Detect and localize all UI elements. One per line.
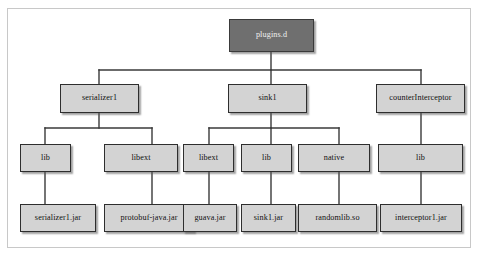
node-label: protobuf-java.jar [119,214,180,223]
node-serializer1-libext[interactable]: libext [104,144,178,172]
node-guava-jar[interactable]: guava.jar [183,204,237,232]
figure-container: plugins.d serializer1 sink1 counterInter… [0,0,479,258]
node-label: lib [39,154,52,163]
node-label: sink1.jar [252,214,285,223]
node-label: counterInterceptor [387,94,453,103]
node-sink1-native[interactable]: native [298,144,370,172]
node-label: native [322,154,347,163]
node-sink1-libext[interactable]: libext [183,144,234,172]
node-label: serializer1.jar [33,214,83,223]
node-label: plugins.d [254,31,289,40]
node-randomlib-so[interactable]: randomlib.so [298,204,377,232]
node-serializer1-lib[interactable]: lib [20,144,71,172]
node-label: lib [414,154,427,163]
node-label: sink1 [256,94,278,103]
node-protobuf-java-jar[interactable]: protobuf-java.jar [104,204,194,232]
node-counterinterceptor-lib[interactable]: lib [378,144,463,172]
node-interceptor1-jar[interactable]: interceptor1.jar [380,204,462,232]
node-plugins-d[interactable]: plugins.d [229,19,314,52]
node-sink1[interactable]: sink1 [228,84,307,113]
node-serializer1[interactable]: serializer1 [60,84,139,113]
node-label: lib [260,154,273,163]
node-serializer1-jar[interactable]: serializer1.jar [20,204,96,232]
node-sink1-lib[interactable]: lib [241,144,292,172]
node-label: libext [129,154,152,163]
node-sink1-jar[interactable]: sink1.jar [241,204,296,232]
node-label: interceptor1.jar [393,214,449,223]
node-counterinterceptor[interactable]: counterInterceptor [376,84,465,113]
node-label: libext [197,154,220,163]
node-label: guava.jar [192,214,227,223]
diagram-canvas: plugins.d serializer1 sink1 counterInter… [0,0,479,258]
node-label: serializer1 [80,94,119,103]
node-label: randomlib.so [313,214,361,223]
